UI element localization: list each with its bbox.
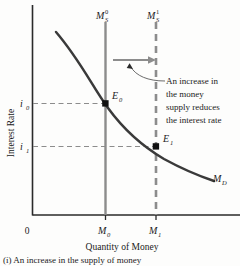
figure-caption: (i) An increase in the supply of money: [3, 255, 142, 265]
x-tick-M0-base: M: [97, 225, 107, 236]
annotation-line-2: the money: [166, 89, 204, 99]
equilibrium-marker-E0: [102, 100, 108, 106]
md-sub: D: [221, 179, 227, 186]
ms0-base: M: [95, 10, 105, 21]
canvas-background: [0, 0, 240, 266]
md-base: M: [212, 173, 222, 184]
annotation-line-1: An increase in: [166, 76, 218, 86]
y-tick-i0-base: i: [20, 98, 23, 109]
y-axis-title: Interest Rate: [6, 109, 16, 157]
x-tick-M1-sub: 1: [158, 231, 161, 238]
ms1-base: M: [146, 10, 156, 21]
ms0-sup: 0: [105, 8, 108, 15]
x-axis-title: Quantity of Money: [86, 242, 159, 252]
annotation-line-3: supply reduces: [166, 102, 220, 112]
x-tick-M1-base: M: [148, 225, 158, 236]
annotation-line-4: the interest rate: [166, 115, 221, 125]
y-tick-i1-sub: 1: [26, 147, 29, 154]
equilibrium-marker-E1: [153, 143, 159, 149]
e1-sub: 1: [170, 139, 173, 146]
e0-base: E: [111, 90, 118, 101]
ms1-sup: 1: [156, 8, 159, 15]
origin-label: 0: [25, 226, 30, 236]
money-market-diagram: Interest Rate Quantity of Money 0 i 0 i …: [0, 0, 240, 266]
figure-container: Interest Rate Quantity of Money 0 i 0 i …: [0, 0, 240, 266]
money-supply-initial-label: M S 0: [95, 8, 109, 24]
e1-base: E: [162, 133, 169, 144]
money-supply-new-label: M S 1: [146, 8, 160, 24]
y-tick-i1-base: i: [20, 141, 23, 152]
